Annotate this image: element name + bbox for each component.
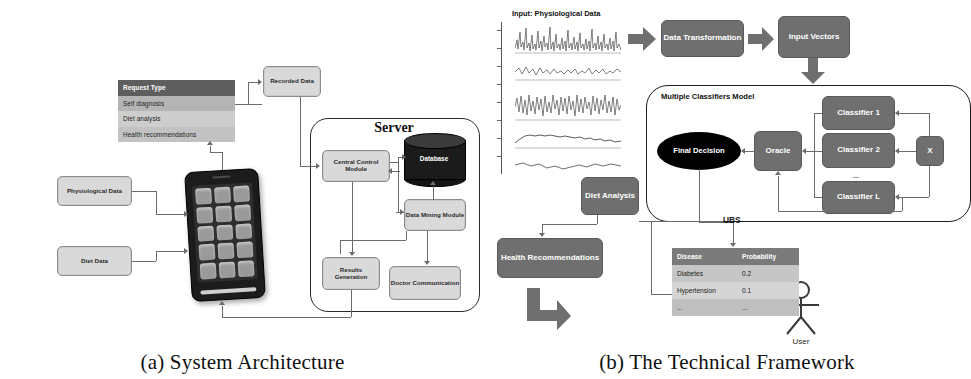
node-classifier-1: Classifier 1: [822, 96, 895, 130]
connector-line: [351, 290, 352, 317]
database-label: Database: [404, 155, 464, 162]
cell-probability: ...: [738, 304, 799, 311]
connector-line: [300, 97, 301, 166]
connector-line: [902, 197, 903, 211]
connector-line: [814, 197, 822, 198]
connector-arrow: [430, 181, 436, 185]
connector-line: [745, 151, 754, 152]
node-results-generation: Results Generation: [322, 257, 380, 290]
connector-line: [398, 162, 399, 212]
physiological-signal-plots: [491, 18, 623, 178]
connector-line: [392, 171, 400, 172]
request-table-row: Self diagnosis: [118, 96, 235, 112]
connector-line: [814, 113, 822, 114]
connector-line: [222, 306, 223, 317]
connector-line: [340, 240, 406, 241]
connector-line: [210, 152, 222, 153]
connector-arrow: [207, 141, 213, 145]
connector-line: [222, 152, 223, 170]
connector-arrow: [775, 171, 781, 175]
panel-a-caption: (a) System Architecture: [0, 350, 485, 375]
request-table-row: Health recommendations: [118, 127, 235, 143]
connector-line: [427, 231, 428, 261]
phone-app-icon: [214, 187, 231, 204]
panel-system-architecture: Request Type Self diagnosis Diet analysi…: [0, 0, 485, 379]
node-database: Database: [404, 133, 464, 181]
connector-arrow: [895, 110, 899, 116]
node-classifier-2: Classifier 2: [822, 133, 895, 168]
signal-plot-4: [515, 127, 621, 151]
smartphone-device: [184, 168, 266, 302]
phone-app-icon: [197, 225, 214, 242]
cell-disease: ...: [672, 304, 738, 311]
phone-screen: [192, 182, 258, 282]
node-classifier-L: Classifier L: [822, 181, 895, 214]
connector-line: [156, 251, 184, 252]
connector-line: [248, 82, 258, 83]
connector-arrow: [730, 243, 736, 247]
node-diet-data: Diet Data: [57, 246, 132, 276]
column-header-probability: Probability: [738, 253, 799, 260]
connector-line: [390, 162, 398, 163]
cell-probability: 0.2: [738, 270, 799, 277]
phone-speaker: [212, 176, 230, 179]
signal-y-axis: [501, 22, 502, 174]
connector-arrow: [316, 163, 320, 169]
signal-plot-1: [515, 22, 621, 55]
connector-arrow: [741, 148, 745, 154]
connector-line: [778, 211, 902, 212]
cell-probability: 0.1: [738, 287, 799, 294]
node-final-decision: Final Decision: [657, 132, 741, 170]
connector-arrow: [895, 194, 899, 200]
connector-arrow: [424, 261, 430, 265]
connector-line: [733, 222, 734, 243]
cell-disease: Hypertension: [672, 287, 738, 294]
table-row: Hypertension 0.1: [672, 282, 799, 299]
signal-plot-5: [515, 155, 621, 177]
table-header-row: Disease Probability: [672, 248, 799, 265]
mcm-title: Multiple Classifiers Model: [661, 92, 754, 101]
phone-app-icon: [215, 205, 232, 222]
ubs-label: UBS: [723, 215, 741, 225]
node-health-recommendations: Health Recommendations: [497, 238, 603, 278]
panel-b-caption: (b) The Technical Framework: [485, 350, 969, 375]
connector-line: [340, 240, 341, 254]
connector-line: [814, 151, 815, 197]
phone-home-bar: [200, 287, 256, 294]
connector-arrow: [400, 209, 404, 215]
connector-arrow: [184, 248, 188, 254]
node-diet-analysis: Diet Analysis: [581, 177, 639, 215]
request-table-row: Diet analysis: [118, 111, 235, 127]
connector-line: [235, 104, 262, 105]
phone-app-icon: [200, 263, 217, 280]
node-input-x: X: [916, 136, 944, 166]
classifier-ellipsis: ...: [853, 172, 859, 179]
connector-line: [778, 176, 779, 211]
connector-arrow: [349, 252, 355, 256]
connector-line: [248, 82, 249, 104]
connector-arrow: [258, 79, 262, 85]
node-recorded-data: Recorded Data: [263, 66, 321, 97]
node-data-transformation: Data Transformation: [661, 20, 744, 57]
connector-line: [814, 113, 815, 151]
connector-line: [132, 261, 156, 262]
phone-app-icon: [238, 260, 255, 277]
connector-line: [156, 214, 184, 215]
phone-app-icon: [233, 185, 250, 202]
request-type-table: Request Type Self diagnosis Diet analysi…: [118, 80, 235, 142]
connector-arrow: [802, 148, 806, 154]
node-doctor-communication: Doctor Communication: [389, 266, 461, 300]
connector-line: [899, 151, 916, 152]
connector-line: [899, 113, 929, 114]
connector-line: [651, 294, 673, 295]
connector-line: [699, 169, 700, 222]
signal-plot-3: [515, 87, 621, 123]
connector-line: [651, 221, 652, 294]
connector-arrow: [219, 301, 225, 305]
connector-line: [406, 231, 407, 240]
phone-app-icon: [195, 188, 212, 205]
flow-arrow-to-user: [527, 288, 571, 330]
connector-line: [132, 191, 156, 192]
connector-line: [929, 113, 930, 136]
panel-technical-framework: Input: Physiological Data: [485, 0, 969, 379]
